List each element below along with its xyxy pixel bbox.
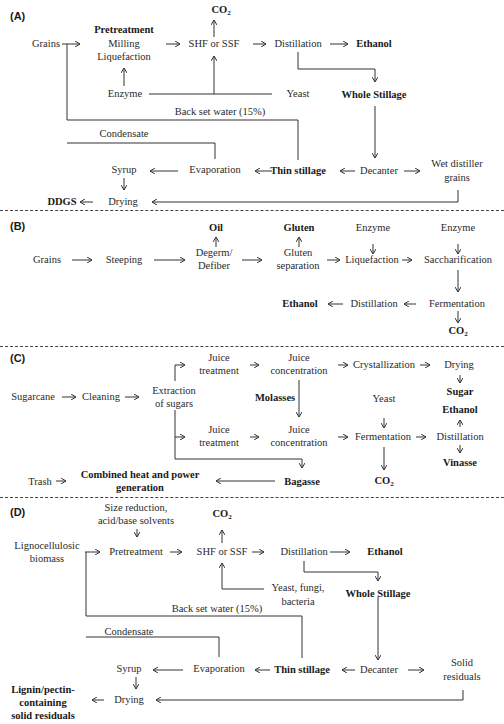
gluten-separation-node-line2: separation: [276, 260, 319, 273]
pretreatment-node: Pretreatment: [109, 546, 163, 559]
lignocellulosic-biomass-node: Lignocellulosic: [14, 540, 79, 553]
distillation-node: Distillation: [350, 298, 397, 311]
whole-stillage-node: Whole Stillage: [345, 588, 410, 601]
decanter-node: Decanter: [360, 165, 398, 178]
panel-divider: [0, 210, 504, 211]
lignin-pectin-residuals-node-line3: solid residuals: [11, 710, 75, 723]
oil-node: Oil: [209, 222, 223, 235]
co2-node: CO2: [212, 508, 231, 524]
shf-ssf-node: SHF or SSF: [189, 38, 240, 51]
grains-node: Grains: [32, 38, 60, 51]
saccharification-node: Saccharification: [424, 254, 492, 267]
juice-treatment-node: Juice: [208, 424, 230, 437]
yeast-fungi-bacteria-node-line2: bacteria: [281, 596, 314, 609]
juice-treatment-node: Juice: [208, 352, 230, 365]
drying-node: Drying: [114, 694, 144, 707]
degerm-defiber-node: Degerm/: [196, 247, 233, 260]
trash-node: Trash: [28, 476, 52, 489]
extraction-of-sugars-node: Extraction: [152, 385, 196, 398]
liquefaction-node: Liquefaction: [97, 51, 151, 64]
enzyme-node: Enzyme: [441, 222, 475, 235]
panel-label: (B): [10, 220, 25, 232]
distillation-node: Distillation: [280, 546, 327, 559]
thin-stillage-node: Thin stillage: [274, 664, 330, 677]
size-reduction-node-line2: acid/base solvents: [98, 515, 174, 528]
enzyme-node: Enzyme: [108, 88, 142, 101]
degerm-defiber-node-line2: Defiber: [198, 260, 230, 273]
bagasse-node: Bagasse: [284, 476, 320, 489]
milling-node: Milling: [108, 38, 140, 51]
juice-concentration-node-line2: concentration: [270, 365, 327, 378]
cleaning-node: Cleaning: [82, 391, 120, 404]
bioethanol-process-diagram: (A) CO2 Grains Pretreatment Milling Liqu…: [0, 0, 504, 724]
panel-divider: [0, 497, 504, 498]
pretreatment-node: Pretreatment: [94, 24, 154, 37]
ethanol-node: Ethanol: [442, 404, 478, 417]
evaporation-node: Evaporation: [193, 663, 244, 676]
juice-concentration-node-line2: concentration: [270, 437, 327, 450]
backset-water-label: Back set water (15%): [175, 106, 266, 119]
juice-concentration-node: Juice: [288, 352, 310, 365]
sugar-node: Sugar: [447, 386, 474, 399]
ethanol-node: Ethanol: [367, 546, 403, 559]
wet-distiller-grains-node: Wet distiller: [431, 158, 482, 171]
ethanol-node: Ethanol: [356, 38, 392, 51]
enzyme-node: Enzyme: [356, 222, 390, 235]
lignin-pectin-residuals-node-line2: containing: [19, 697, 66, 710]
vinasse-node: Vinasse: [443, 457, 477, 470]
drying-node: Drying: [444, 359, 474, 372]
solid-residuals-node: Solid: [451, 657, 473, 670]
ethanol-node: Ethanol: [282, 298, 318, 311]
extraction-of-sugars-node-line2: of sugars: [155, 398, 193, 411]
panel-label: (D): [10, 506, 25, 518]
juice-concentration-node: Juice: [288, 424, 310, 437]
distillation-node: Distillation: [274, 38, 321, 51]
evaporation-node: Evaporation: [189, 164, 240, 177]
molasses-node: Molasses: [255, 392, 295, 405]
chp-generation-node-line2: generation: [116, 482, 164, 495]
wet-distiller-grains-node-line2: grains: [444, 172, 470, 185]
ddgs-node: DDGS: [47, 196, 76, 209]
solid-residuals-node-line2: residuals: [443, 671, 480, 684]
gluten-separation-node: Gluten: [284, 247, 313, 260]
chp-generation-node: Combined heat and power: [81, 469, 200, 482]
juice-treatment-node-line2: treatment: [199, 437, 239, 450]
whole-stillage-node: Whole Stillage: [341, 89, 406, 102]
sugarcane-node: Sugarcane: [11, 391, 55, 404]
juice-treatment-node-line2: treatment: [199, 365, 239, 378]
condensate-label: Condensate: [105, 626, 154, 639]
yeast-fungi-bacteria-node: Yeast, fungi,: [272, 582, 325, 595]
co2-node: CO2: [211, 4, 230, 20]
decanter-node: Decanter: [360, 664, 398, 677]
lignin-pectin-residuals-node: Lignin/pectin-: [11, 684, 75, 697]
distillation-node: Distillation: [436, 431, 483, 444]
liquefaction-node: Liquefaction: [345, 254, 399, 267]
fermentation-node: Fermentation: [429, 298, 485, 311]
yeast-node: Yeast: [287, 88, 310, 101]
panel-label: (A): [10, 10, 25, 22]
panel-divider: [0, 346, 504, 347]
co2-node: CO2: [448, 325, 467, 341]
crystallization-node: Crystallization: [353, 359, 415, 372]
syrup-node: Syrup: [116, 663, 141, 676]
syrup-node: Syrup: [111, 164, 136, 177]
grains-node: Grains: [33, 254, 61, 267]
yeast-node: Yeast: [373, 393, 396, 406]
thin-stillage-node: Thin stillage: [270, 165, 326, 178]
size-reduction-node: Size reduction,: [105, 502, 168, 515]
co2-node: CO2: [374, 475, 393, 491]
steeping-node: Steeping: [106, 254, 143, 267]
shf-ssf-node: SHF or SSF: [197, 546, 248, 559]
condensate-label: Condensate: [100, 128, 149, 141]
panel-label: (C): [10, 352, 25, 364]
fermentation-node: Fermentation: [355, 431, 411, 444]
lignocellulosic-biomass-node-line2: biomass: [30, 553, 64, 566]
drying-node: Drying: [108, 196, 138, 209]
gluten-node: Gluten: [284, 222, 315, 235]
backset-water-label: Back set water (15%): [172, 603, 263, 616]
